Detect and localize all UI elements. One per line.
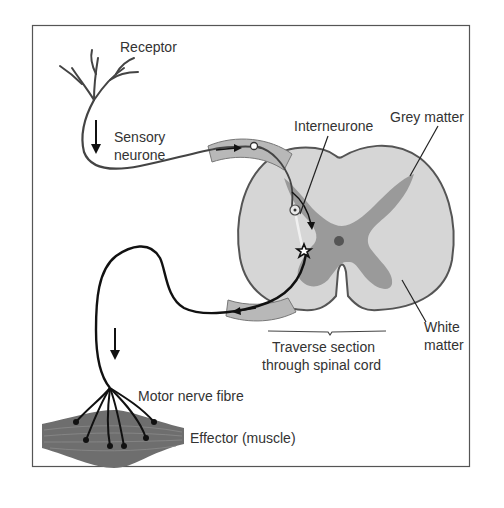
label-motor: Motor nerve fibre [138, 388, 244, 404]
reflex-arc-diagram: Receptor Sensory neurone Interneurone Gr… [0, 0, 504, 508]
arrow-down-icon [91, 120, 101, 154]
label-sensory-2: neurone [114, 147, 166, 163]
dorsal-root [208, 139, 292, 170]
label-sensory-1: Sensory [114, 129, 165, 145]
label-grey-matter: Grey matter [390, 109, 464, 125]
section-brace [268, 331, 386, 335]
central-canal [334, 236, 344, 246]
sensory-neurone [82, 100, 262, 169]
label-effector: Effector (muscle) [190, 430, 296, 446]
arrow-down-icon [110, 328, 120, 360]
ganglion-cell [251, 143, 258, 150]
label-white-1: White [424, 319, 460, 335]
label-interneurone: Interneurone [294, 118, 374, 134]
label-section-2: through spinal cord [262, 357, 381, 373]
label-section-1: Traverse section [272, 339, 375, 355]
muscle [42, 410, 184, 468]
label-white-2: matter [424, 337, 464, 353]
label-receptor: Receptor [120, 39, 177, 55]
receptor-dendrites [60, 50, 138, 100]
